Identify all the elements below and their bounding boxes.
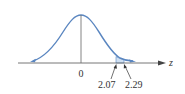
curve-right-arrow-icon (129, 60, 136, 63)
bell-curve (33, 15, 133, 61)
center-label: 0 (79, 68, 84, 79)
pointer-line-right (125, 66, 131, 79)
axis-arrow-icon (158, 61, 166, 66)
lower-bound-label: 2.07 (98, 79, 116, 90)
upper-bound-label: 2.29 (125, 79, 143, 90)
axis-label-z: z (168, 57, 173, 68)
normal-curve-diagram: z 0 2.07 2.29 (0, 0, 185, 94)
curve-left-arrow-icon (30, 59, 36, 62)
pointer-right-arrow-icon (124, 64, 127, 69)
pointer-left-arrow-icon (114, 64, 117, 69)
